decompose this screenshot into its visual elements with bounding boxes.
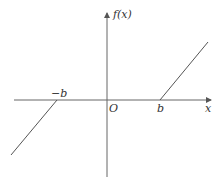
neg-b-tick-label: −b xyxy=(51,88,67,99)
right-branch-line xyxy=(160,42,208,100)
pos-b-tick-label: b xyxy=(157,103,164,114)
origin-label: O xyxy=(109,103,118,114)
left-branch-line xyxy=(11,100,57,155)
y-axis-label: f(x) xyxy=(113,9,132,20)
function-graph xyxy=(0,0,219,189)
x-axis-label: x xyxy=(205,103,211,114)
